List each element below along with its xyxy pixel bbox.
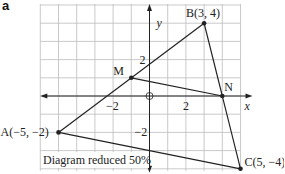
y-axis-label: y [156, 16, 163, 30]
x-tick-label: −2 [106, 99, 119, 113]
coordinate-plane: xy−222−2 A(−5, −2)B(3, 4)C(5, −4)MN Diag… [0, 0, 284, 174]
point-label-C: C(5, −4) [245, 155, 285, 169]
point-C [238, 167, 243, 172]
diagram: a xy−222−2 A(−5, −2)B(3, 4)C(5, −4)MN Di… [0, 0, 284, 174]
x-tick-label: 2 [183, 99, 189, 113]
y-tick-label: 2 [140, 53, 146, 67]
caption: Diagram reduced 50% [43, 153, 151, 167]
point-label-N: N [224, 80, 233, 94]
point-A [56, 130, 61, 135]
grid [40, 4, 240, 171]
point-label-B: B(3, 4) [186, 6, 220, 20]
x-axis-arrow-icon [246, 94, 253, 99]
point-label-A: A(−5, −2) [1, 125, 49, 139]
x-axis-arrow-icon [40, 94, 47, 99]
y-tick-label: −2 [135, 125, 148, 139]
points: A(−5, −2)B(3, 4)C(5, −4)MN [1, 6, 285, 171]
segment-MN [131, 78, 222, 96]
point-label-M: M [113, 64, 124, 78]
part-label: a [2, 0, 9, 13]
x-axis-label: x [244, 99, 251, 113]
point-M [129, 76, 134, 81]
point-N [220, 94, 225, 99]
point-B [202, 21, 207, 26]
